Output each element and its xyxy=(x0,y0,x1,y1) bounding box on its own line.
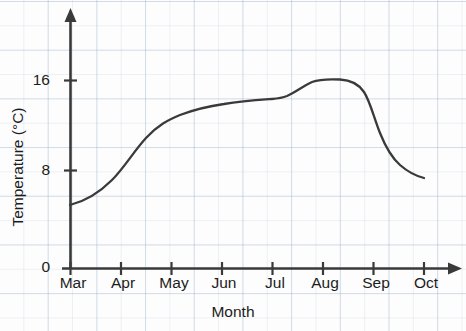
x-tick-label-oct: Oct xyxy=(396,274,456,292)
y-axis-title-wrapper: Temperature (°C) xyxy=(0,0,24,331)
x-axis-title: Month xyxy=(0,303,466,321)
temperature-curve xyxy=(70,79,424,205)
y-axis xyxy=(64,8,77,269)
x-axis-arrowhead xyxy=(448,263,462,275)
temperature-line-chart: 16 8 0 Mar Apr May Jun Jul Aug Sep Oct M… xyxy=(0,0,466,331)
y-axis-arrowhead xyxy=(65,8,77,22)
y-axis-title: Temperature (°C) xyxy=(9,67,27,267)
